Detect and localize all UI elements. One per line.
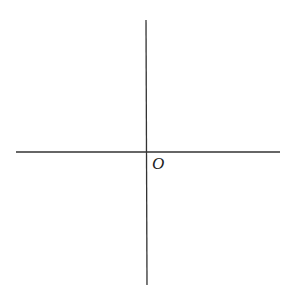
diagram-canvas: O [0, 0, 289, 299]
y-axis-line [146, 20, 147, 285]
axes-svg [0, 0, 289, 299]
origin-label: O [152, 155, 164, 172]
